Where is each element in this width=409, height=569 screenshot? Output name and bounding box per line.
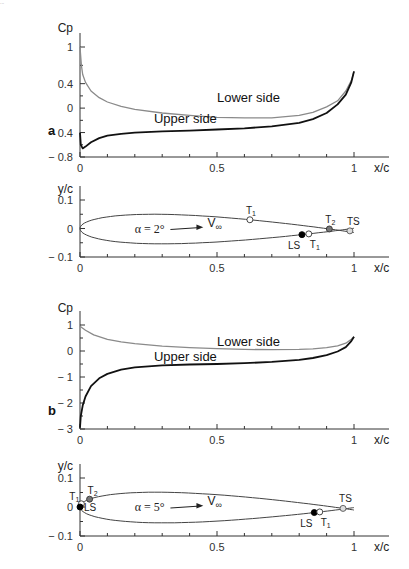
x-tick-label: 0: [77, 541, 83, 553]
y-tick-label: − 1: [57, 371, 73, 383]
upper-side-label: Upper side: [154, 349, 217, 364]
marker-ls: [299, 232, 305, 238]
y-tick-label: 0: [67, 223, 73, 235]
marker-label: T1: [246, 205, 256, 217]
x-tick-label: 0: [77, 434, 83, 446]
x-axis-label: x/c: [374, 433, 389, 447]
y-axis-label: y/c: [58, 182, 73, 196]
x-tick-label: 1: [351, 262, 357, 274]
lower-side-label: Lower side: [217, 334, 280, 349]
y-tick-label: 1: [67, 319, 73, 331]
x-tick-label: 0.5: [209, 434, 224, 446]
upper-side-curve: [80, 337, 354, 428]
y-tick-label: 0: [67, 102, 73, 114]
marker-t1: [247, 217, 253, 223]
x-axis-label: x/c: [374, 261, 389, 275]
y-tick-label: 0.1: [58, 472, 73, 484]
x-tick-label: 1: [351, 434, 357, 446]
x-tick-label: 0.5: [209, 162, 224, 174]
marker-label: T2: [325, 214, 335, 226]
marker-label: LS: [300, 518, 313, 529]
lower-side-curve: [80, 47, 354, 118]
cp-plot-a: 00.51x/c10.40− 0.4− 0.8CpLower sideUpper…: [48, 21, 389, 175]
x-axis-label: x/c: [374, 540, 389, 554]
angle-of-attack-label: α = 2°: [135, 222, 165, 236]
marker-label: T1: [310, 239, 320, 251]
marker-label: T1: [321, 517, 331, 529]
arrow-head-icon: [196, 225, 203, 231]
y-tick-label: 0: [67, 501, 73, 513]
x-tick-label: 0: [77, 262, 83, 274]
y-tick-label: − 3: [57, 423, 73, 435]
x-tick-label: 0.5: [209, 541, 224, 553]
x-tick-label: 0: [77, 162, 83, 174]
x-tick-label: 0.5: [209, 262, 224, 274]
marker-label: LS: [84, 502, 97, 513]
y-tick-label: − 2: [57, 397, 73, 409]
lower-side-label: Lower side: [217, 90, 280, 105]
y-axis-label: y/c: [58, 459, 73, 473]
marker-label: TS: [347, 216, 360, 227]
marker-t1: [317, 509, 323, 515]
marker-label: T1: [69, 491, 79, 503]
x-tick-label: 1: [351, 541, 357, 553]
y-axis-label: Cp: [58, 301, 74, 315]
x-tick-label: 1: [351, 162, 357, 174]
y-tick-label: 0: [67, 345, 73, 357]
airfoil-plot-a: 00.51x/c0.10− 0.1y/cα = 2°V∞T1T2TSLST1: [48, 182, 389, 275]
marker-label: LS: [288, 240, 301, 251]
arrow-head-icon: [196, 503, 203, 509]
marker-t2: [326, 226, 332, 232]
figure: a b 00.51x/c10.40− 0.4− 0.8CpLower sideU…: [0, 0, 409, 569]
cp-plot-b: 00.51x/c10− 1− 2− 3CpLower sideUpper sid…: [57, 301, 389, 447]
y-tick-label: − 0.1: [48, 530, 73, 542]
y-tick-label: − 0.4: [48, 127, 73, 139]
y-axis-label: Cp: [58, 21, 74, 35]
angle-of-attack-label: α = 5°: [135, 500, 165, 514]
airfoil-plot-b: 00.51x/c0.10− 0.1y/cα = 5°V∞T1T2LSTSLST1: [48, 459, 389, 554]
panel-label-b: b: [48, 403, 56, 418]
y-tick-label: − 0.8: [48, 151, 73, 163]
x-axis-label: x/c: [374, 161, 389, 175]
upper-side-curve: [80, 71, 354, 148]
freestream-velocity-label: V∞: [207, 494, 221, 510]
y-tick-label: 1: [67, 41, 73, 53]
marker-label: T2: [88, 485, 98, 497]
freestream-arrow: [170, 228, 200, 230]
marker-label: TS: [339, 493, 352, 504]
y-tick-label: − 0.1: [48, 251, 73, 263]
freestream-velocity-label: V∞: [207, 216, 221, 232]
marker-ts: [347, 228, 353, 234]
freestream-arrow: [170, 506, 200, 508]
upper-side-label: Upper side: [154, 111, 217, 126]
marker-ts: [340, 505, 346, 511]
y-tick-label: 0.4: [58, 78, 73, 90]
marker-t1: [306, 231, 312, 237]
marker-ls: [77, 504, 83, 510]
